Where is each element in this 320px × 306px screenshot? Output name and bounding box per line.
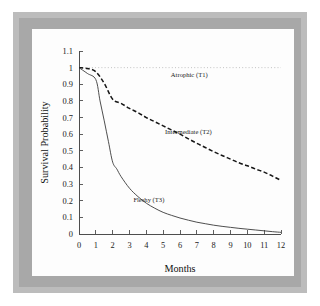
y-tick-label: 0.4 [63, 163, 74, 172]
x-tick-label: 2 [111, 241, 115, 250]
y-tick-label: 0.6 [63, 130, 73, 139]
y-tick-label: 0.7 [63, 114, 73, 123]
chart-series-labels: Atrophic (T1)Intermediate (T2)Fleshy (T3… [133, 71, 211, 204]
x-tick-label: 0 [77, 241, 81, 250]
y-tick-label: 1.1 [63, 47, 73, 56]
y-tick-label: 0.8 [63, 97, 73, 106]
x-tick-label: 3 [127, 241, 131, 250]
x-tick-label: 8 [212, 241, 216, 250]
y-tick-label: 0.1 [63, 213, 73, 222]
survival-probability-chart: 00.10.20.30.40.50.60.70.80.911.1 0123456… [32, 29, 294, 276]
y-tick-label: 0.5 [63, 147, 73, 156]
x-tick-label: 6 [178, 241, 182, 250]
y-tick-label: 0 [69, 230, 73, 239]
x-tick-label: 5 [161, 241, 165, 250]
chart-axes [79, 51, 281, 234]
y-tick-label: 0.9 [63, 80, 73, 89]
x-tick-label: 11 [260, 241, 268, 250]
figure-page: 00.10.20.30.40.50.60.70.80.911.1 0123456… [0, 0, 320, 306]
series-label-2: Intermediate (T2) [165, 128, 212, 136]
x-tick-label: 10 [243, 241, 251, 250]
series-label-1: Atrophic (T1) [171, 71, 208, 79]
chart-series-curves [79, 68, 281, 233]
y-axis-ticks: 00.10.20.30.40.50.60.70.80.911.1 [63, 47, 83, 239]
y-tick-label: 1 [69, 64, 73, 73]
x-tick-label: 9 [228, 241, 232, 250]
y-axis-title: Survival Probability [39, 100, 50, 183]
y-tick-label: 0.2 [63, 197, 73, 206]
chart-plot-area: 00.10.20.30.40.50.60.70.80.911.1 0123456… [32, 29, 294, 276]
series-curve-2 [79, 68, 281, 181]
y-tick-label: 0.3 [63, 180, 73, 189]
x-axis-title: Months [164, 263, 195, 274]
x-tick-label: 7 [195, 241, 199, 250]
x-axis-ticks: 0123456789101112 [77, 230, 285, 250]
series-label-3: Fleshy (T3) [133, 196, 164, 204]
x-tick-label: 12 [277, 241, 285, 250]
x-tick-label: 4 [144, 241, 149, 250]
x-tick-label: 1 [94, 241, 98, 250]
